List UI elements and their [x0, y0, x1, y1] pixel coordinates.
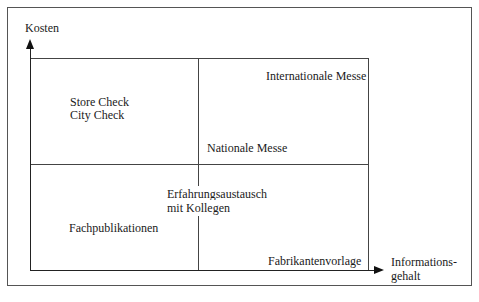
x-axis — [30, 270, 375, 271]
label-internationale-messe: Internationale Messe — [266, 69, 366, 83]
label-city-check: City Check — [70, 108, 124, 122]
label-nationale-messe: Nationale Messe — [207, 141, 287, 155]
horizontal-divider — [30, 164, 369, 165]
label-store-check: Store Check — [70, 95, 129, 109]
label-fabrikantenvorlage: Fabrikantenvorlage — [268, 254, 361, 268]
x-axis-label-line2: gehalt — [391, 269, 420, 283]
x-axis-arrow-icon — [374, 266, 384, 274]
y-axis — [30, 46, 31, 271]
x-axis-label-line1: Informations- — [391, 255, 457, 269]
label-fachpublikationen: Fachpublikationen — [69, 221, 158, 235]
y-axis-label: Kosten — [25, 21, 59, 35]
y-axis-arrow-icon — [26, 39, 34, 49]
label-mit-kollegen: mit Kollegen — [167, 200, 230, 216]
